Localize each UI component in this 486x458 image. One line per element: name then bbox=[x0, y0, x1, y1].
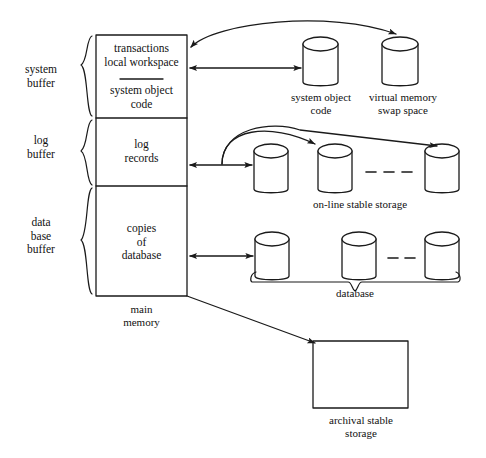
caption-virtual-memory-swap-space: virtual memory swap space bbox=[358, 91, 448, 117]
disk-online-1 bbox=[254, 144, 288, 193]
disk-database-1 bbox=[255, 232, 289, 280]
mm-code-label: code bbox=[90, 98, 193, 112]
main-memory-caption: main memory bbox=[96, 303, 187, 329]
mm-section-log-records-text: log records bbox=[96, 138, 187, 165]
caption-system-object-code: system object code bbox=[278, 91, 364, 117]
mm-database-label: database bbox=[96, 249, 187, 263]
disk-online-2 bbox=[318, 144, 352, 193]
mm-copies-label: copies bbox=[96, 222, 187, 236]
brace-database-buffer bbox=[81, 188, 92, 294]
mm-transactions-label: transactions bbox=[90, 42, 193, 56]
arrow-mm-to-vm-swap bbox=[191, 21, 396, 47]
disk-database-3 bbox=[425, 232, 459, 280]
disk-virtual-memory-swap-space bbox=[382, 37, 418, 86]
mm-section-system-buffer-text: transactions local workspace bbox=[90, 42, 193, 69]
caption-archival-line2: storage bbox=[310, 427, 412, 440]
left-label-database-buffer-line3: buffer bbox=[10, 243, 72, 257]
caption-system-object-code-line1: system object bbox=[278, 91, 364, 104]
left-label-database-buffer-line2: base bbox=[10, 230, 72, 244]
caption-database-group: database bbox=[310, 287, 400, 300]
caption-online-stable-storage: on-line stable storage bbox=[290, 198, 430, 211]
left-label-log-buffer-line2: buffer bbox=[10, 148, 72, 162]
mm-records-label: records bbox=[96, 152, 187, 166]
disk-system-object-code bbox=[303, 37, 338, 86]
left-label-database-buffer-line1: data bbox=[10, 216, 72, 230]
left-label-database-buffer: data base buffer bbox=[10, 216, 72, 257]
left-label-system-buffer: system buffer bbox=[10, 63, 72, 90]
caption-archival-stable-storage: archival stable storage bbox=[310, 414, 412, 440]
mm-of-label: of bbox=[96, 236, 187, 250]
mm-section-copies-of-database-text: copies of database bbox=[96, 222, 187, 263]
left-label-system-buffer-line1: system bbox=[10, 63, 72, 77]
caption-virtual-memory-line2: swap space bbox=[358, 104, 448, 117]
left-label-log-buffer-line1: log bbox=[10, 134, 72, 148]
mm-system-object-label: system object bbox=[90, 84, 193, 98]
arrow-mm-to-archival bbox=[187, 296, 315, 343]
left-label-log-buffer: log buffer bbox=[10, 134, 72, 161]
mm-log-label: log bbox=[96, 138, 187, 152]
main-memory-caption-line2: memory bbox=[96, 316, 187, 329]
main-memory-caption-line1: main bbox=[96, 303, 187, 316]
caption-online-stable-storage-text: on-line stable storage bbox=[290, 198, 430, 211]
caption-virtual-memory-line1: virtual memory bbox=[358, 91, 448, 104]
mm-local-workspace-label: local workspace bbox=[90, 56, 193, 70]
disk-database-2 bbox=[342, 232, 376, 280]
storage-structure-diagram bbox=[0, 0, 486, 458]
caption-archival-line1: archival stable bbox=[310, 414, 412, 427]
caption-database-group-text: database bbox=[310, 287, 400, 300]
caption-system-object-code-line2: code bbox=[278, 104, 364, 117]
archival-stable-storage-box bbox=[313, 341, 408, 408]
disk-online-3 bbox=[425, 144, 459, 193]
left-label-system-buffer-line2: buffer bbox=[10, 77, 72, 91]
brace-log-buffer bbox=[81, 120, 92, 185]
mm-section-system-object-code-text: system object code bbox=[90, 84, 193, 111]
